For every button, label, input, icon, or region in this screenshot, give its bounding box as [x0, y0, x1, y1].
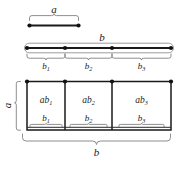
mini-brace-b2 [70, 123, 107, 126]
segment-b-node-2 [110, 46, 114, 50]
label-a-top: a [51, 3, 57, 15]
segment-a-endpoint-left [27, 23, 31, 27]
label-b1-index: 1 [47, 65, 50, 72]
label-cell-ab3-base: ab [135, 95, 145, 105]
segment-a-endpoint-right [76, 23, 80, 27]
segment-b-group: b b1 b2 b3 [25, 31, 174, 73]
label-b-bottom: b [94, 146, 100, 158]
distributive-property-diagram: a b b1 [0, 0, 185, 169]
rectangle-area-model: a ab1 ab2 ab3 b [1, 79, 174, 158]
segment-b-node-3 [169, 46, 173, 50]
label-b3-index: 3 [141, 65, 145, 72]
label-b2-index: 2 [89, 65, 92, 72]
rectangle-top-node-1 [63, 79, 67, 83]
label-cell-width-b1-index: 1 [47, 117, 50, 124]
segment-b-node-0 [25, 46, 29, 50]
brace-b1 [27, 54, 65, 60]
label-cell-width-b1: b1 [42, 113, 50, 124]
label-cell-ab1-index: 1 [49, 99, 52, 106]
label-cell-width-b2: b2 [85, 113, 93, 124]
label-b1: b1 [42, 61, 50, 72]
brace-b2 [65, 54, 112, 60]
label-b-top: b [99, 31, 105, 43]
rectangle-top-node-2 [110, 79, 114, 83]
rectangle-top-node-0 [25, 79, 29, 83]
label-cell-width-b2-index: 2 [89, 117, 92, 124]
rectangle-top-node-3 [169, 79, 173, 83]
brace-b3 [112, 54, 171, 60]
brace-b-bottom [23, 134, 171, 145]
segment-b-node-1 [63, 46, 67, 50]
label-cell-ab2: ab2 [82, 95, 95, 106]
label-cell-ab1-base: ab [40, 95, 50, 105]
label-cell-ab3: ab3 [135, 95, 148, 106]
mini-brace-b3 [119, 123, 164, 126]
mini-brace-b1 [30, 123, 62, 126]
label-cell-ab1: ab1 [40, 95, 53, 106]
brace-a-left [15, 82, 21, 131]
label-cell-width-b3: b3 [138, 113, 146, 124]
label-a-left: a [1, 102, 13, 108]
label-b2: b2 [85, 61, 93, 72]
label-cell-ab2-index: 2 [92, 99, 95, 106]
label-b3: b3 [138, 61, 146, 72]
brace-a-top [30, 14, 79, 21]
label-cell-ab3-index: 3 [144, 99, 148, 106]
label-cell-ab2-base: ab [82, 95, 92, 105]
segment-a-group: a [27, 3, 80, 28]
figure-container: a b b1 [0, 0, 185, 169]
